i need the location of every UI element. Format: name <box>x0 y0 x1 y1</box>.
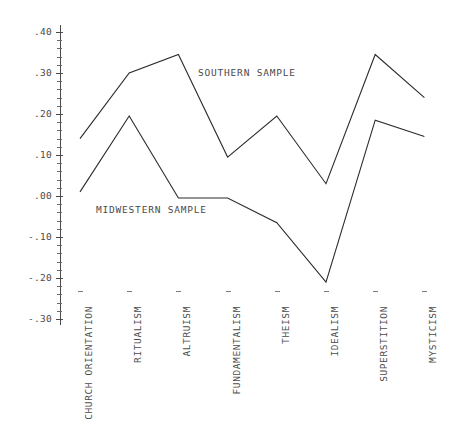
series-line-midwestern <box>80 116 424 282</box>
line-chart: .40.30.20.10.00-.10-.20-.30 CHURCH ORIEN… <box>0 0 461 435</box>
series-annotation-southern: SOUTHERN SAMPLE <box>198 68 296 78</box>
plot-area <box>0 0 461 435</box>
series-annotation-midwestern: MIDWESTERN SAMPLE <box>96 205 207 215</box>
